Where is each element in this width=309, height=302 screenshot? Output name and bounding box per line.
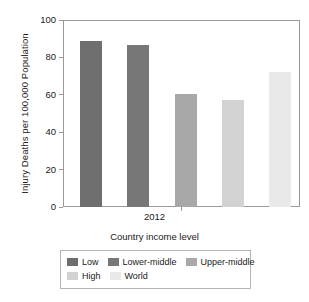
legend-label: Low — [82, 257, 99, 267]
legend-swatch-icon — [67, 272, 78, 280]
legend: LowLower-middleUpper-middleHighWorld — [60, 250, 251, 289]
bar-high — [222, 100, 244, 207]
bar-low — [80, 41, 102, 207]
bars-group — [63, 20, 300, 207]
legend-item-world[interactable]: World — [110, 271, 148, 281]
legend-swatch-icon — [110, 272, 121, 280]
tick-label: 100 — [40, 14, 56, 25]
bar-upper-middle — [175, 94, 197, 207]
x-axis-title: Country income level — [0, 231, 309, 242]
legend-row: HighWorld — [67, 269, 244, 283]
legend-label: Upper-middle — [201, 257, 255, 267]
legend-item-low[interactable]: Low — [67, 257, 99, 267]
legend-label: High — [82, 271, 101, 281]
bar-chart-figure: Injury Deaths per 100,000 Population 020… — [0, 0, 309, 302]
legend-label: World — [125, 271, 148, 281]
bar-lower-middle — [127, 45, 149, 207]
tick-label: 80 — [45, 51, 56, 62]
legend-item-lower-middle[interactable]: Lower-middle — [108, 257, 177, 267]
legend-item-upper-middle[interactable]: Upper-middle — [186, 257, 255, 267]
legend-swatch-icon — [67, 258, 78, 266]
tick-label: 40 — [45, 126, 56, 137]
bar-world — [269, 72, 291, 207]
tick-label: 60 — [45, 89, 56, 100]
legend-row: LowLower-middleUpper-middle — [67, 255, 244, 269]
legend-swatch-icon — [108, 258, 119, 266]
legend-swatch-icon — [186, 258, 197, 266]
legend-label: Lower-middle — [123, 257, 177, 267]
y-axis-title: Injury Deaths per 100,000 Population — [19, 14, 30, 214]
legend-item-high[interactable]: High — [67, 271, 101, 281]
x-axis-tick-label-2012: 2012 — [0, 211, 309, 222]
tick-label: 20 — [45, 164, 56, 175]
